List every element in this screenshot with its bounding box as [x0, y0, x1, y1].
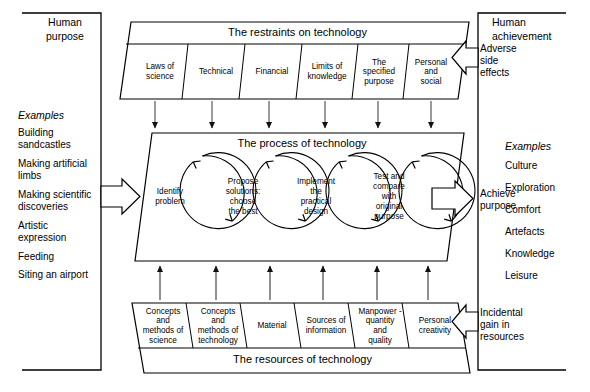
resources-cell-5: Manpower - quantity and quality — [352, 305, 408, 347]
resource-to-process-arrows — [160, 266, 428, 300]
achieve-purpose-arrow — [432, 181, 473, 216]
right-panel-heading-line2: achievement — [492, 30, 552, 42]
left-panel-heading-line1: Human — [30, 16, 100, 28]
right-example-item-1: Culture — [505, 160, 537, 172]
left-example-item-5: Feeding — [18, 251, 54, 263]
left-examples-label: Examples — [18, 109, 64, 121]
process-stage-3: Implement the practical design — [285, 169, 347, 225]
left-example-item-3: Making scientific discoveries — [18, 189, 91, 213]
left-example-item-2: Making artificial limbs — [18, 158, 87, 182]
left-panel-heading-line2: purpose — [30, 30, 100, 42]
restraints-cell-4: Limits of knowledge — [299, 47, 355, 97]
process-banner: The process of technology — [152, 137, 452, 150]
resources-banner: The resources of technology — [140, 353, 465, 366]
process-stage-2: Propose solutions: choose the best — [212, 169, 274, 225]
left-example-item-4: Artistic expression — [18, 220, 66, 244]
diagram-canvas: Human purpose Examples Building sandcast… — [0, 0, 590, 392]
achieve-purpose-label: Achieve purpose — [480, 188, 516, 212]
process-stage-1: Identify problem — [139, 176, 201, 218]
restraint-to-process-arrows — [155, 101, 431, 128]
restraints-cell-5: The specified purpose — [352, 47, 406, 97]
restraints-cell-1: Laws of science — [134, 47, 186, 97]
right-examples-label: Examples — [505, 140, 551, 152]
resources-cell-6: Personal creativity — [407, 305, 463, 347]
right-panel-heading-line1: Human — [492, 16, 526, 28]
right-example-item-5: Knowledge — [505, 248, 554, 260]
process-stage-4: Test and compare with original purpose — [358, 165, 420, 229]
restraints-banner: The restraints on technology — [130, 26, 465, 39]
left-example-item-6: Siting an airport — [18, 269, 88, 281]
right-example-item-6: Leisure — [505, 270, 538, 282]
purpose-into-process-arrow — [101, 179, 140, 214]
restraints-cell-3: Financial — [245, 47, 299, 97]
resources-cell-3: Material — [245, 305, 299, 347]
resources-cell-2: Concepts and methods of technology — [190, 305, 246, 347]
resources-cell-4: Sources of information — [298, 305, 354, 347]
left-example-item-1: Building sandcastles — [18, 127, 71, 151]
restraints-cell-6: Personal and social — [404, 47, 458, 97]
adverse-side-effects-label: Adverse side effects — [480, 43, 517, 79]
incidental-gain-label: Incidental gain in resources — [480, 307, 524, 343]
resources-cell-1: Concepts and methods of science — [136, 305, 190, 347]
restraints-cell-2: Technical — [189, 47, 243, 97]
right-example-item-4: Artefacts — [505, 226, 544, 238]
